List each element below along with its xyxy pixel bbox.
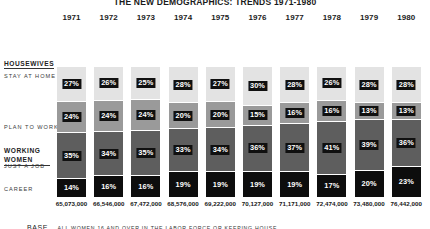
bar-column-1974: 28%20%33%19% — [169, 67, 198, 197]
base-values-row: 65,073,00066,546,00067,472,00068,576,000… — [0, 200, 430, 212]
bar-segment-value: 28% — [174, 80, 193, 90]
bar-segment-1971-plan-to-work: 24% — [57, 102, 86, 133]
bar-segment-value: 36% — [397, 138, 416, 148]
bar-column-1977: 28%16%37%19% — [280, 67, 309, 197]
bar-segment-1974-plan-to-work: 20% — [169, 103, 198, 129]
bar-segment-1975-just-a-job: 34% — [206, 128, 235, 172]
bar-segment-value: 13% — [360, 106, 379, 116]
bar-segment-1979-career: 20% — [355, 171, 384, 197]
bar-segment-1975-career: 19% — [206, 172, 235, 197]
bar-segment-1978-just-a-job: 41% — [317, 122, 346, 175]
bar-segment-value: 20% — [211, 110, 230, 120]
bar-segment-1979-plan-to-work: 13% — [355, 103, 384, 120]
bar-segment-1979-just-a-job: 39% — [355, 120, 384, 171]
base-footnote: BASE ALL WOMEN 16 AND OVER IN THE LABOR … — [27, 216, 277, 229]
bar-segment-1980-just-a-job: 36% — [392, 120, 421, 167]
bar-segment-1974-just-a-job: 33% — [169, 129, 198, 172]
bar-segment-1972-just-a-job: 34% — [94, 132, 123, 176]
bar-segment-1977-career: 19% — [280, 172, 309, 197]
bar-segment-1973-just-a-job: 35% — [131, 131, 160, 177]
bar-segment-value: 16% — [285, 108, 304, 118]
bar-segment-value: 37% — [285, 143, 304, 153]
bar-segment-value: 26% — [99, 78, 118, 88]
bar-segment-value: 19% — [176, 181, 191, 189]
bar-segment-1973-plan-to-work: 24% — [131, 100, 160, 131]
bar-segment-1976-career: 19% — [243, 172, 272, 197]
bar-segment-1973-career: 16% — [131, 176, 160, 197]
bar-segment-1972-plan-to-work: 24% — [94, 101, 123, 132]
bar-column-1973: 25%24%35%16% — [131, 67, 160, 197]
bar-segment-1974-stay-at-home: 28% — [169, 67, 198, 103]
bar-segment-value: 28% — [397, 80, 416, 90]
bar-segment-1974-career: 19% — [169, 172, 198, 197]
bar-column-1972: 26%24%34%16% — [94, 67, 123, 197]
base-value-1978: 72,474,000 — [313, 200, 350, 207]
bar-segment-value: 36% — [248, 143, 267, 153]
bar-segment-value: 16% — [138, 183, 153, 191]
bar-segment-1976-just-a-job: 36% — [243, 126, 272, 173]
base-value-1979: 73,480,000 — [351, 200, 388, 207]
bar-segment-1976-plan-to-work: 15% — [243, 106, 272, 126]
bar-segment-value: 30% — [248, 81, 267, 91]
bar-segment-value: 27% — [62, 79, 81, 89]
bar-segment-value: 16% — [101, 183, 116, 191]
bar-segment-1971-stay-at-home: 27% — [57, 67, 86, 102]
bar-segment-value: 27% — [211, 79, 230, 89]
bar-segment-value: 25% — [136, 78, 155, 88]
bar-segment-1971-just-a-job: 35% — [57, 133, 86, 179]
base-value-1972: 66,546,000 — [90, 200, 127, 207]
bar-segment-value: 26% — [322, 78, 341, 88]
base-value-1976: 70,127,000 — [239, 200, 276, 207]
bar-segment-1973-stay-at-home: 25% — [131, 67, 160, 100]
bar-segment-value: 33% — [174, 145, 193, 155]
base-value-1975: 69,222,000 — [202, 200, 239, 207]
bar-segment-value: 20% — [362, 180, 377, 188]
base-value-1980: 76,442,000 — [388, 200, 425, 207]
bar-segment-value: 41% — [322, 143, 341, 153]
bar-segment-1979-stay-at-home: 28% — [355, 67, 384, 103]
bar-segment-1975-plan-to-work: 20% — [206, 102, 235, 128]
bar-segment-value: 24% — [136, 110, 155, 120]
bar-segment-1972-career: 16% — [94, 176, 123, 197]
bar-segment-value: 24% — [99, 111, 118, 121]
bar-segment-value: 34% — [99, 149, 118, 159]
stacked-bar-columns: 27%24%35%14%26%24%34%16%25%24%35%16%28%2… — [0, 0, 430, 229]
base-value-1973: 67,472,000 — [127, 200, 164, 207]
base-note-text: ALL WOMEN 16 AND OVER IN THE LABOR FORCE… — [58, 225, 278, 229]
bar-column-1975: 27%20%34%19% — [206, 67, 235, 197]
bar-segment-1977-just-a-job: 37% — [280, 124, 309, 172]
bar-segment-value: 15% — [248, 110, 267, 120]
bar-segment-1971-career: 14% — [57, 179, 86, 197]
chart-root: THE NEW DEMOGRAPHICS: TRENDS 1971-1980 1… — [0, 0, 430, 229]
bar-segment-1976-stay-at-home: 30% — [243, 67, 272, 106]
bar-segment-1978-plan-to-work: 16% — [317, 101, 346, 122]
bar-segment-1978-career: 17% — [317, 175, 346, 197]
base-label: BASE — [27, 224, 48, 229]
bar-segment-value: 17% — [324, 182, 339, 190]
bar-segment-1978-stay-at-home: 26% — [317, 67, 346, 101]
bar-segment-value: 28% — [360, 80, 379, 90]
bar-segment-value: 34% — [211, 145, 230, 155]
bar-segment-1975-stay-at-home: 27% — [206, 67, 235, 102]
bar-segment-1977-stay-at-home: 28% — [280, 67, 309, 103]
bar-segment-1972-stay-at-home: 26% — [94, 67, 123, 101]
bar-segment-value: 24% — [62, 112, 81, 122]
bar-segment-1980-career: 23% — [392, 167, 421, 197]
bar-column-1976: 30%15%36%19% — [243, 67, 272, 197]
bar-segment-value: 35% — [62, 151, 81, 161]
bar-segment-value: 39% — [360, 140, 379, 150]
bar-segment-1980-plan-to-work: 13% — [392, 103, 421, 120]
bar-segment-1980-stay-at-home: 28% — [392, 67, 421, 103]
bar-column-1971: 27%24%35%14% — [57, 67, 86, 197]
bar-segment-value: 19% — [287, 181, 302, 189]
bar-segment-value: 35% — [136, 148, 155, 158]
bar-segment-value: 19% — [213, 181, 228, 189]
bar-column-1979: 28%13%39%20% — [355, 67, 384, 197]
bar-segment-value: 13% — [397, 106, 416, 116]
bar-segment-1977-plan-to-work: 16% — [280, 103, 309, 124]
bar-segment-value: 20% — [174, 111, 193, 121]
bar-segment-value: 28% — [285, 80, 304, 90]
bar-segment-value: 23% — [399, 178, 414, 186]
bar-segment-value: 19% — [250, 181, 265, 189]
bar-segment-value: 14% — [64, 184, 79, 192]
